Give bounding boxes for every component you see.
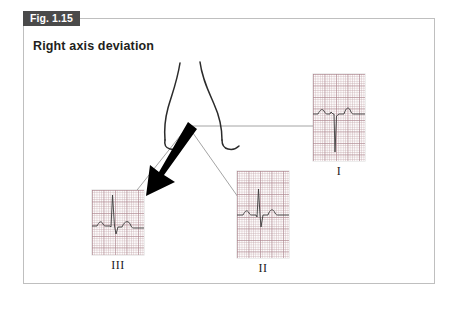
figure-panel-border (23, 18, 435, 284)
ecg-waveform-lead-iii (92, 190, 144, 255)
figure-number-tab: Fig. 1.15 (23, 11, 80, 26)
ecg-waveform-lead-i (313, 74, 365, 161)
figure-container: Fig. 1.15 Right axis deviation (0, 0, 457, 311)
ecg-waveform-lead-ii (237, 171, 289, 258)
figure-title: Right axis deviation (33, 39, 154, 53)
ecg-strip-lead-i (313, 74, 365, 161)
lead-label-iii: III (92, 258, 144, 273)
lead-label-ii: II (237, 261, 289, 276)
ecg-strip-lead-ii (237, 171, 289, 258)
ecg-strip-lead-iii (92, 190, 144, 255)
lead-label-i: I (313, 164, 365, 179)
